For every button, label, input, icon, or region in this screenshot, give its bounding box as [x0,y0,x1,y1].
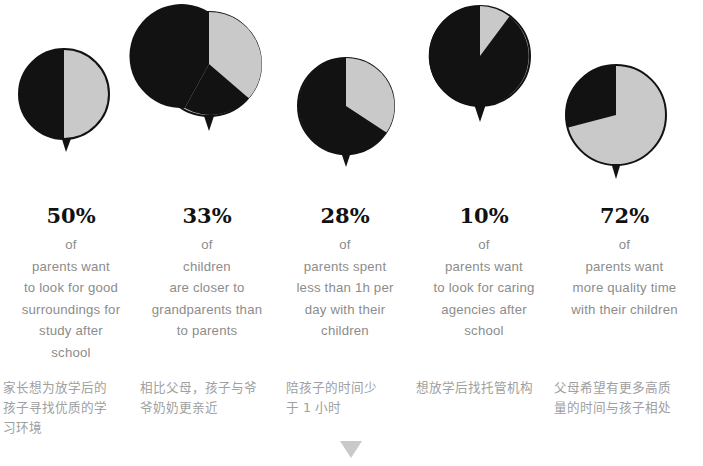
pie-slice-dark-4 [429,6,529,106]
zh-line: 于 1 小时 [286,398,377,418]
desc-line: parents want [408,256,560,278]
desc-line: of [0,234,142,256]
stat-percent-5: 72% [546,205,703,226]
stat-description-4: of parents want to look for caring agenc… [408,234,560,342]
pie-chart-5 [561,63,673,181]
stat-percent-4: 10% [408,205,560,226]
pie-chart-3-svg [294,57,398,169]
stat-description-2: of children are closer to grandparents t… [132,234,282,342]
pie-chart-1 [16,48,112,156]
infographic-canvas: 50% of parents want to look for good sur… [0,0,703,466]
desc-line: of [408,234,560,256]
zh-line: 父母希望有更多高质 [554,378,671,398]
desc-line: of [132,234,282,256]
desc-line: of [272,234,418,256]
zh-line: 习环境 [3,418,107,438]
desc-line: day with their [272,299,418,321]
pie-chart-2-svg [153,11,265,133]
desc-line: parents spent [272,256,418,278]
desc-line: more quality time [546,277,703,299]
pie-chart-5-svg [561,63,673,181]
desc-line: to look for caring [408,277,560,299]
desc-line: are closer to [132,277,282,299]
stat-column-1: 50% of parents want to look for good sur… [0,0,142,466]
desc-line: children [272,320,418,342]
zh-line: 爷奶奶更亲近 [140,398,257,418]
stat-column-3: 28% of parents spent less than 1h per da… [272,0,418,466]
stat-percent-1: 50% [0,205,142,226]
desc-line: school [408,320,560,342]
pie-chart-1-svg [16,48,112,156]
stat-chinese-4: 想放学后找托管机构 [416,378,533,398]
desc-line: to parents [132,320,282,342]
stat-column-2: 33% of children are closer to grandparen… [132,0,282,466]
stat-percent-3: 28% [272,205,418,226]
stat-chinese-1: 家长想为放学后的 孩子寻找优质的学 习环境 [3,378,107,438]
desc-line: parents want [0,256,142,278]
desc-line: agencies after [408,299,560,321]
stat-description-3: of parents spent less than 1h per day wi… [272,234,418,342]
pie-chart-4 [426,4,534,124]
pie-chart-3 [294,57,398,169]
zh-line: 想放学后找托管机构 [416,378,533,398]
zh-line: 孩子寻找优质的学 [3,398,107,418]
desc-line: grandparents than [132,299,282,321]
zh-line: 陪孩子的时间少 [286,378,377,398]
desc-line: school [0,342,142,364]
triangle-down-icon [340,441,362,458]
zh-line: 相比父母，孩子与爷 [140,378,257,398]
stat-chinese-5: 父母希望有更多高质 量的时间与孩子相处 [554,378,671,418]
pie-chart-4-svg [426,4,534,124]
pie-chart-2 [153,11,265,133]
desc-line: parents want [546,256,703,278]
zh-line: 量的时间与孩子相处 [554,398,671,418]
stat-chinese-3: 陪孩子的时间少 于 1 小时 [286,378,377,418]
desc-line: of [546,234,703,256]
desc-line: to look for good [0,277,142,299]
desc-line: with their children [546,299,703,321]
desc-line: surroundings for [0,299,142,321]
zh-line: 家长想为放学后的 [3,378,107,398]
stat-chinese-2: 相比父母，孩子与爷 爷奶奶更亲近 [140,378,257,418]
pie-slice-dark-1 [19,49,64,139]
stat-percent-2: 33% [132,205,282,226]
stat-description-1: of parents want to look for good surroun… [0,234,142,363]
desc-line: study after [0,320,142,342]
stat-column-4: 10% of parents want to look for caring a… [408,0,560,466]
desc-line: less than 1h per [272,277,418,299]
stat-column-5: 72% of parents want more quality time wi… [546,0,703,466]
desc-line: children [132,256,282,278]
stat-description-5: of parents want more quality time with t… [546,234,703,320]
